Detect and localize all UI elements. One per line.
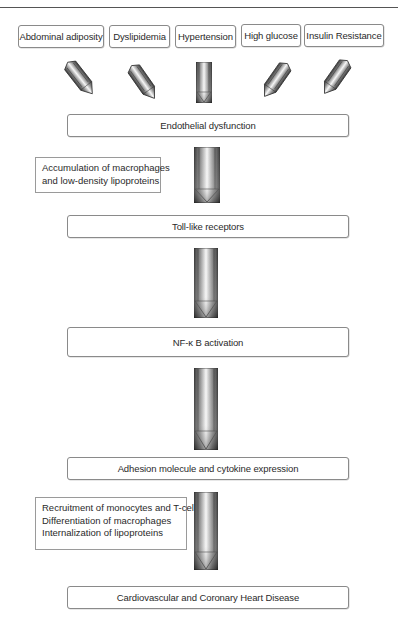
arrow-down-left-icon <box>258 58 294 102</box>
arrow-down-icon <box>194 147 220 203</box>
side-note-recruitment: Recruitment of monocytes and T-cells Dif… <box>35 497 187 550</box>
arrow-down-right-icon <box>62 56 98 100</box>
side-note-line: Accumulation of macrophages <box>42 162 154 175</box>
side-note-line: Recruitment of monocytes and T-cells <box>42 502 180 515</box>
side-note-line: Differentiation of macrophages <box>42 515 180 528</box>
arrow-down-right-icon <box>125 60 161 104</box>
step-cardiovascular-disease: Cardiovascular and Coronary Heart Diseas… <box>67 586 349 609</box>
side-note-line: and low-density lipoproteins <box>42 175 154 188</box>
arrow-down-left-icon <box>318 55 354 99</box>
step-nf-kb-activation: NF-κ B activation <box>67 327 349 357</box>
header-rule <box>0 7 398 8</box>
risk-factor-hypertension: Hypertension <box>175 25 236 48</box>
step-endothelial-dysfunction: Endothelial dysfunction <box>67 114 349 137</box>
risk-factor-dyslipidemia: Dyslipidemia <box>109 25 170 48</box>
arrow-down-icon <box>194 492 218 570</box>
step-adhesion-cytokine-expression: Adhesion molecule and cytokine expressio… <box>67 457 349 480</box>
arrow-down-icon <box>194 368 218 450</box>
step-toll-like-receptors: Toll-like receptors <box>67 215 349 238</box>
risk-factor-high-glucose: High glucose <box>241 24 301 47</box>
side-note-line: Internalization of lipoproteins <box>42 527 180 540</box>
arrow-down-icon <box>194 248 218 318</box>
risk-factor-abdominal-adiposity: Abdominal adiposity <box>18 25 104 48</box>
arrow-down-icon <box>196 62 212 103</box>
risk-factor-insulin-resistance: Insulin Resistance <box>304 24 384 47</box>
side-note-accumulation: Accumulation of macrophages and low-dens… <box>35 157 161 193</box>
